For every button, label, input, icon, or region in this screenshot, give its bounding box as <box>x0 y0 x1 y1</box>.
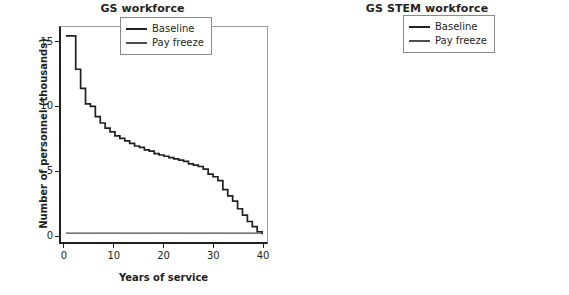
legend-line-pay-freeze-icon <box>409 40 430 42</box>
x-tick-mark <box>213 244 214 248</box>
x-tick-label: 10 <box>107 251 120 261</box>
x-tick-mark <box>63 244 64 248</box>
legend-item-pay-freeze[interactable]: Pay freeze <box>126 36 204 50</box>
series-baseline <box>66 36 262 234</box>
x-axis-title-left: Years of service <box>59 272 268 283</box>
legend-item-baseline[interactable]: Baseline <box>126 22 204 36</box>
x-tick-mark <box>113 244 114 248</box>
y-axis-title-left: Number of personnel (thousands) <box>38 34 49 234</box>
panel-gs-workforce: GS workforce 051015 010203040 Years of s… <box>0 0 285 295</box>
x-tick-label: 20 <box>157 251 170 261</box>
panel-title-left: GS workforce <box>0 2 285 15</box>
x-tick-label: 0 <box>61 251 67 261</box>
legend-left[interactable]: Baseline Pay freeze <box>120 17 212 55</box>
y-tick-mark <box>55 41 59 42</box>
figure-two-panel-chart: GS workforce 051015 010203040 Years of s… <box>0 0 569 295</box>
x-tick-label: 40 <box>257 251 270 261</box>
legend-item-baseline[interactable]: Baseline <box>409 20 487 34</box>
legend-right[interactable]: Baseline Pay freeze <box>403 15 495 53</box>
legend-label-baseline: Baseline <box>435 22 477 32</box>
legend-line-baseline-icon <box>409 26 430 28</box>
y-tick-mark <box>55 171 59 172</box>
x-tick-mark <box>163 244 164 248</box>
x-tick-label: 30 <box>207 251 220 261</box>
legend-line-pay-freeze-icon <box>126 42 147 44</box>
legend-label-pay-freeze: Pay freeze <box>435 36 487 46</box>
y-tick-mark <box>55 236 59 237</box>
plot-area-left <box>59 26 268 244</box>
legend-label-pay-freeze: Pay freeze <box>152 38 204 48</box>
legend-line-baseline-icon <box>126 28 147 30</box>
plot-curves-left <box>61 27 267 242</box>
panel-gs-stem-workforce: GS STEM workforce 02468101214 010203040 … <box>285 0 569 295</box>
legend-item-pay-freeze[interactable]: Pay freeze <box>409 34 487 48</box>
y-tick-mark <box>55 106 59 107</box>
x-tick-mark <box>263 244 264 248</box>
legend-label-baseline: Baseline <box>152 24 194 34</box>
panel-title-right: GS STEM workforce <box>285 2 569 15</box>
